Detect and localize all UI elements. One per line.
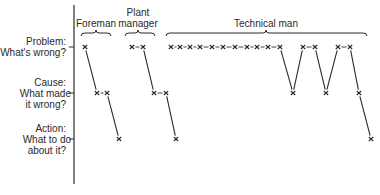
x-mark [324,91,328,95]
transition-line [281,50,292,89]
transition-line [360,96,370,135]
transition-line [294,50,303,89]
transition-line [351,50,359,89]
cause-subtitle-2: it wrong? [20,99,66,110]
x-mark [83,45,87,49]
x-mark [245,45,249,49]
x-mark [313,45,317,49]
problem-title: Problem: [0,36,66,47]
group-label-foreman: Foreman [76,18,116,29]
cause-subtitle: What made [20,88,71,99]
group-label-plant-manager: Plant manager [118,7,157,29]
action-subtitle: What to do [23,134,71,145]
x-mark [174,137,178,141]
plant-manager-line1: Plant [118,7,157,18]
x-mark [198,45,202,49]
group-label-technical-man: Technical man [234,18,298,29]
x-mark [278,45,282,49]
x-mark [130,45,134,49]
x-mark [255,45,259,49]
x-mark [164,91,168,95]
brace-technical-man [166,30,367,36]
action-title: Action: [23,123,66,134]
x-mark [221,45,225,49]
x-mark [266,45,270,49]
group-braces [81,30,367,36]
x-mark [178,45,182,49]
x-mark [95,91,99,95]
row-label-action: Action: What to do about it? [23,123,66,156]
x-mark [357,91,361,95]
brace-plant-manager [125,30,155,36]
transition-line [167,96,176,135]
x-mark [141,45,145,49]
plant-manager-line2: manager [118,18,157,29]
x-mark [369,137,373,141]
row-label-cause: Cause: What made it wrong? [20,77,66,110]
x-mark [291,91,295,95]
cause-title: Cause: [20,77,66,88]
x-mark [210,45,214,49]
x-mark [117,137,121,141]
x-marks [83,45,373,141]
x-mark [301,45,305,49]
action-subtitle-2: about it? [23,145,66,156]
transition-line [144,50,153,89]
row-label-problem: Problem: What's wrong? [0,36,66,58]
x-mark [348,45,352,49]
x-mark [188,45,192,49]
transition-line [327,50,337,89]
brace-foreman [81,30,111,36]
problem-subtitle: What's wrong? [0,47,66,58]
x-mark [105,91,109,95]
transition-line [108,96,118,135]
transition-line [316,50,325,89]
x-mark [233,45,237,49]
x-mark [152,91,156,95]
x-mark [169,45,173,49]
transition-line [86,50,96,89]
x-mark [336,45,340,49]
